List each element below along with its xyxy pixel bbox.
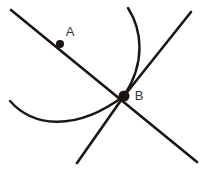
arc-left-to-b <box>10 96 124 122</box>
point-a-dot <box>56 40 64 48</box>
point-b-dot <box>119 91 130 102</box>
line-through-a-and-b <box>11 10 197 162</box>
ray-b-to-upper-right <box>124 12 191 96</box>
ray-b-to-lower-left <box>77 96 124 163</box>
arc-top-to-b <box>124 8 140 96</box>
point-b-label: B <box>135 88 144 103</box>
geometry-figure-canvas: Intersecting lines and arcs at point B A… <box>0 0 204 170</box>
point-a-label: A <box>66 24 75 39</box>
geometry-figure-svg: Intersecting lines and arcs at point B A… <box>0 0 204 170</box>
